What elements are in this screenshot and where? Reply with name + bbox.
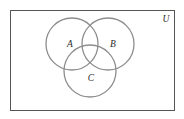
- set-b-label: B: [110, 40, 116, 50]
- venn-diagram-figure: U A B C: [0, 0, 184, 119]
- set-a-label: A: [67, 40, 73, 50]
- set-c-label: C: [88, 74, 94, 84]
- universe-label: U: [163, 15, 170, 25]
- venn-diagram-canvas: [0, 0, 184, 119]
